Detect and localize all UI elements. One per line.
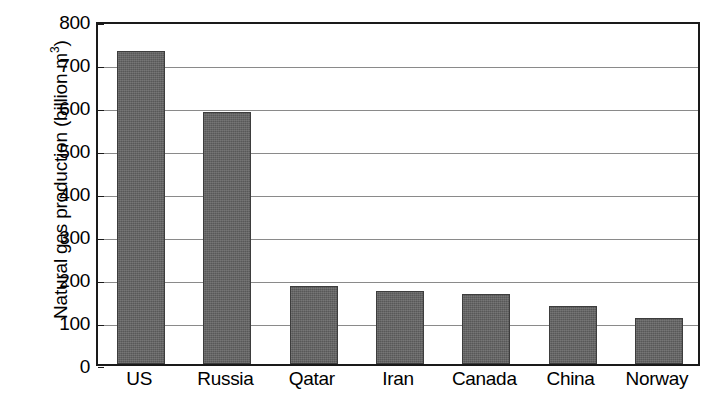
bar-slot: [616, 24, 702, 364]
x-axis-tick-label-norway: Norway: [626, 368, 689, 390]
x-axis-tick-labels: USRussiaQatarIranCanadaChinaNorway: [96, 368, 700, 398]
plot-area: [96, 22, 700, 366]
bar-canada[interactable]: [462, 294, 510, 364]
y-axis-tick-label: 800: [28, 13, 90, 32]
x-axis-tick-label-russia: Russia: [197, 368, 253, 390]
x-axis-tick-label-us: US: [126, 368, 152, 390]
bar-russia[interactable]: [203, 112, 251, 364]
y-axis-tick-label: 0: [28, 357, 90, 376]
y-axis-tick-label: 200: [28, 271, 90, 290]
bar-us[interactable]: [117, 51, 165, 364]
x-axis-tick-label-qatar: Qatar: [289, 368, 335, 390]
y-axis-tick-label: 400: [28, 185, 90, 204]
bar-china[interactable]: [549, 306, 597, 364]
bar-qatar[interactable]: [290, 286, 338, 364]
bar-slot: [357, 24, 443, 364]
x-axis-tick-label-iran: Iran: [382, 368, 414, 390]
bar-chart-figure: Natural gas production (billion m3) 0100…: [0, 0, 716, 416]
y-axis-tick-label: 500: [28, 142, 90, 161]
bar-slot: [98, 24, 184, 364]
y-axis-tick-label: 700: [28, 56, 90, 75]
bar-slot: [443, 24, 529, 364]
bar-slot: [529, 24, 615, 364]
x-axis-tick-label-china: China: [546, 368, 594, 390]
bar-norway[interactable]: [635, 318, 683, 364]
bar-slot: [271, 24, 357, 364]
y-axis-tick-label: 600: [28, 99, 90, 118]
bar-iran[interactable]: [376, 291, 424, 364]
bars-layer: [98, 24, 698, 364]
x-axis-tick-label-canada: Canada: [452, 368, 517, 390]
y-axis-tick-label: 100: [28, 314, 90, 333]
y-axis-tick-labels: 0100200300400500600700800: [28, 14, 90, 366]
y-axis-tick-label: 300: [28, 228, 90, 247]
bar-slot: [184, 24, 270, 364]
